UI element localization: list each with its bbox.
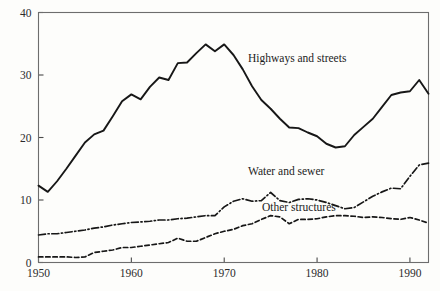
x-tick-label-1980: 1980 (306, 267, 329, 279)
chart-figure: 010203040 19501960197019801990 Highways … (0, 0, 440, 291)
x-tick-label-1970: 1970 (213, 267, 236, 279)
series-label-highways: Highways and streets (248, 52, 347, 65)
y-tick-label-40: 40 (20, 7, 32, 19)
series-label-water: Water and sewer (248, 165, 325, 177)
x-tick-label-1950: 1950 (27, 267, 50, 279)
x-tick-label-1960: 1960 (120, 267, 143, 279)
figure-background (0, 0, 440, 291)
y-tick-label-30: 30 (20, 69, 32, 81)
y-tick-label-10: 10 (20, 194, 32, 206)
x-tick-label-1990: 1990 (398, 267, 421, 279)
series-label-other: Other structures (262, 201, 336, 213)
y-tick-label-20: 20 (20, 132, 32, 144)
